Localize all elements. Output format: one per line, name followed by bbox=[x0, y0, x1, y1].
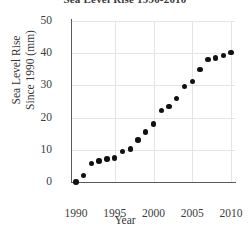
y-axis-title-line1: Sea Level Rise bbox=[9, 5, 23, 135]
chart-figure: Sea Level Rise 1990-2010 01020304050 199… bbox=[0, 0, 250, 236]
y-axis-title-line2: Since 1990 (mm) bbox=[23, 5, 37, 135]
gridline-vertical bbox=[231, 21, 232, 182]
data-point bbox=[143, 129, 148, 134]
data-point bbox=[135, 137, 140, 142]
y-tick-label: 0 bbox=[26, 176, 52, 188]
chart-title: Sea Level Rise 1990-2010 bbox=[0, 0, 250, 5]
data-point bbox=[190, 79, 195, 84]
y-axis-title: Sea Level Rise Since 1990 (mm) bbox=[9, 5, 37, 135]
gridline-vertical bbox=[154, 21, 155, 182]
data-point bbox=[228, 50, 233, 55]
data-point bbox=[197, 67, 202, 72]
data-point bbox=[159, 108, 164, 113]
x-axis-line bbox=[71, 182, 236, 183]
data-point bbox=[221, 53, 226, 58]
data-point bbox=[81, 173, 86, 178]
data-point bbox=[73, 179, 78, 184]
data-point bbox=[213, 55, 218, 60]
data-point bbox=[182, 84, 187, 89]
data-point bbox=[120, 149, 125, 154]
x-axis-title: Year bbox=[0, 214, 250, 226]
data-point bbox=[166, 104, 171, 109]
data-point bbox=[112, 155, 117, 160]
data-point bbox=[151, 121, 156, 126]
data-point bbox=[89, 161, 94, 166]
data-point bbox=[128, 146, 133, 151]
data-point bbox=[96, 158, 101, 163]
y-tick-label: 10 bbox=[26, 144, 52, 156]
data-point bbox=[205, 57, 210, 62]
data-point bbox=[104, 156, 109, 161]
gridline-vertical bbox=[192, 21, 193, 182]
data-point bbox=[174, 96, 179, 101]
plot-area: 01020304050 19901995200020052010 bbox=[72, 21, 235, 182]
